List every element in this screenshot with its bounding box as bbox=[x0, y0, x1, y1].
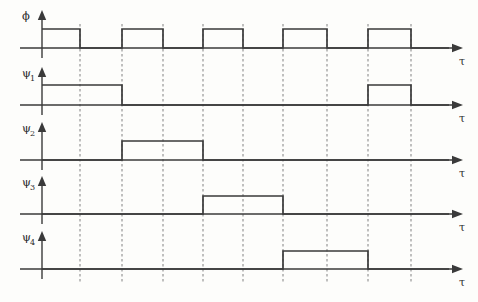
signal-phi bbox=[42, 29, 449, 48]
signal-psi1 bbox=[42, 85, 449, 105]
time-axis-arrow-psi2 bbox=[452, 156, 463, 164]
gridlines-group bbox=[80, 24, 411, 283]
signal-label-phi: ϕ bbox=[22, 9, 30, 23]
time-axis-arrow-psi3 bbox=[452, 210, 463, 218]
signal-label-subscript-psi2: 2 bbox=[30, 129, 35, 138]
tau-axis-label-psi4: τ bbox=[459, 276, 465, 289]
signals-group bbox=[42, 29, 449, 269]
tau-axis-label-psi3: τ bbox=[459, 221, 465, 234]
tau-axis-label-phi: τ bbox=[459, 55, 465, 68]
tau-axis-label-psi1: τ bbox=[459, 112, 465, 125]
signal-psi3 bbox=[42, 196, 449, 214]
value-axis-arrow-psi3 bbox=[38, 176, 46, 186]
time-axis-arrow-phi bbox=[452, 44, 463, 52]
value-axis-arrow-psi2 bbox=[38, 122, 46, 132]
signal-label-subscript-psi4: 4 bbox=[30, 238, 35, 247]
waveform-canvas: ϕτψ1τψ2τψ3τψ4τ bbox=[0, 0, 478, 302]
value-axis-arrow-psi1 bbox=[38, 67, 46, 77]
timing-diagram-figure: ϕτψ1τψ2τψ3τψ4τ bbox=[0, 0, 478, 302]
time-axis-arrow-psi1 bbox=[452, 101, 463, 109]
tau-axis-label-psi2: τ bbox=[459, 167, 465, 180]
signal-label-subscript-psi1: 1 bbox=[30, 74, 35, 83]
time-axis-arrow-psi4 bbox=[452, 265, 463, 273]
axes-group bbox=[20, 10, 463, 279]
signal-label-subscript-psi3: 3 bbox=[30, 183, 35, 192]
value-axis-arrow-psi4 bbox=[38, 231, 46, 241]
signal-psi2 bbox=[42, 141, 449, 160]
signal-psi4 bbox=[42, 251, 449, 269]
value-axis-arrow-phi bbox=[38, 10, 46, 20]
